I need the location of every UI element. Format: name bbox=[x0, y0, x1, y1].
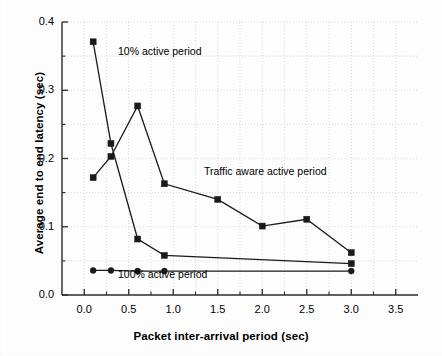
x-tick-label: 1.0 bbox=[153, 303, 193, 315]
series-1 bbox=[90, 103, 354, 256]
y-tick-label: 0.4 bbox=[14, 15, 54, 27]
series-0 bbox=[90, 39, 354, 267]
x-tick-label: 3.5 bbox=[376, 303, 416, 315]
y-tick-label: 0.0 bbox=[14, 288, 54, 300]
series-annotation-label: Traffic aware active period bbox=[204, 165, 327, 177]
x-tick-label: 0.0 bbox=[64, 303, 104, 315]
x-tick-label: 2.0 bbox=[242, 303, 282, 315]
y-tick-label: 0.2 bbox=[14, 152, 54, 164]
x-tick-label: 2.5 bbox=[287, 303, 327, 315]
x-tick-label: 0.5 bbox=[109, 303, 149, 315]
x-axis-title: Packet inter-arrival period (sec) bbox=[0, 330, 442, 342]
series-annotation-label: 10% active period bbox=[118, 45, 201, 57]
chart-figure: Packet inter-arrival period (sec) Averag… bbox=[0, 0, 442, 356]
series-annotation-label: 100% active period bbox=[118, 268, 207, 280]
x-tick-label: 3.0 bbox=[331, 303, 371, 315]
x-tick-label: 1.5 bbox=[198, 303, 238, 315]
y-tick-label: 0.3 bbox=[14, 83, 54, 95]
y-tick-label: 0.1 bbox=[14, 220, 54, 232]
